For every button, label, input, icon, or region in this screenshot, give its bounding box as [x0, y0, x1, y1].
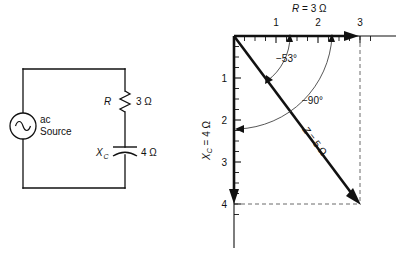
- xc-axis-tick-label-1: 1: [221, 73, 227, 84]
- figure-page: ac Source R 3 Ω X C 4 Ω: [0, 0, 403, 259]
- xc-axis-tick-label-4: 4: [221, 199, 227, 210]
- angle-label-minus-90: −90°: [302, 95, 323, 106]
- angle-arc-minus-90: [238, 36, 332, 129]
- xc-axis-title: XC = 4 Ω: [201, 121, 213, 161]
- resistor-value-label: 3 Ω: [136, 96, 152, 107]
- r-axis-tick-label-3: 3: [357, 17, 363, 28]
- angle-label-minus-53: −53°: [276, 53, 297, 64]
- resistor-symbol: [120, 91, 130, 112]
- impedance-phasor-diagram: 1 2 3 R = 3 Ω: [200, 0, 403, 259]
- capacitor-symbol-subscript: C: [104, 153, 110, 160]
- ac-source-label-line2: Source: [40, 126, 72, 137]
- r-axis-tick-label-1: 1: [273, 17, 279, 28]
- xc-axis-tick-label-2: 2: [221, 115, 227, 126]
- xc-phasor-arrowhead: [229, 189, 239, 204]
- ac-source-label-line1: ac: [40, 114, 51, 125]
- r-axis-title: R = 3 Ω: [292, 3, 327, 14]
- capacitor-value-label: 4 Ω: [141, 147, 157, 158]
- angle-arc-minus-90-arrowhead-end: [235, 125, 244, 133]
- capacitor-symbol-label: X: [95, 147, 103, 158]
- circuit-diagram: ac Source R 3 Ω X C 4 Ω: [0, 0, 200, 259]
- xc-axis-tick-label-3: 3: [221, 157, 227, 168]
- r-phasor-arrowhead: [344, 31, 359, 41]
- resistor-symbol-label: R: [104, 96, 111, 107]
- r-axis-tick-label-2: 2: [315, 17, 321, 28]
- z-phasor-label: Z = 5 Ω: [300, 123, 330, 157]
